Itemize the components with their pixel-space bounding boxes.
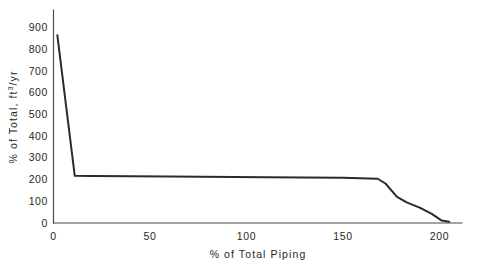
y-tick-label: 100 <box>29 195 48 207</box>
y-tick-label: 900 <box>29 21 48 33</box>
x-tick-label: 50 <box>144 230 157 242</box>
chart-figure: 0100200300400500600700800900 05010015020… <box>0 0 493 277</box>
y-axis-title: % of Total, ft3/yr <box>7 71 19 164</box>
y-axis-title-prefix: % of Total, ft <box>7 90 19 163</box>
x-tick-label: 200 <box>430 230 449 242</box>
y-tick-label: 200 <box>29 173 48 185</box>
y-tick-label: 300 <box>29 151 48 163</box>
x-axis-title: % of Total Piping <box>210 248 307 260</box>
line-chart: 0100200300400500600700800900 05010015020… <box>0 0 493 277</box>
y-tick-label: 500 <box>29 108 48 120</box>
y-axis-title-suffix: /yr <box>7 71 19 86</box>
y-tick-label: 800 <box>29 43 48 55</box>
svg-text:% of Total, ft3/yr: % of Total, ft3/yr <box>7 71 19 164</box>
y-tick-label: 0 <box>42 217 48 229</box>
y-axis-tick-labels: 0100200300400500600700800900 <box>29 21 48 228</box>
data-series-line <box>57 35 449 221</box>
x-tick-label: 100 <box>237 230 256 242</box>
y-tick-label: 600 <box>29 86 48 98</box>
x-axis-tick-labels: 050100150200 <box>50 230 449 242</box>
y-tick-label: 700 <box>29 65 48 77</box>
x-tick-label: 150 <box>333 230 352 242</box>
x-tick-label: 0 <box>50 230 56 242</box>
y-tick-label: 400 <box>29 130 48 142</box>
